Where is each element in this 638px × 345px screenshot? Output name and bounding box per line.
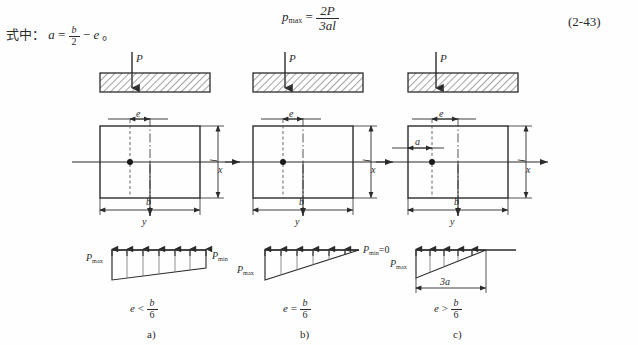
- width-label-a: b: [146, 196, 151, 207]
- load-point-c: [429, 159, 435, 165]
- condition-a: e < b 6: [130, 298, 158, 320]
- load-point-b: [280, 159, 286, 165]
- condition-den-c: 6: [451, 310, 462, 321]
- formula-note-equals: =: [58, 27, 65, 42]
- y-axis-label-a: y: [142, 216, 146, 227]
- y-axis-label-b: y: [295, 216, 299, 227]
- condition-den-a: 6: [147, 310, 158, 321]
- caption-c: c): [453, 328, 462, 340]
- base-dim-label-c: 3a: [440, 276, 450, 287]
- caption-b: b): [300, 328, 309, 340]
- pressure-left-label-a: Pmax: [86, 252, 103, 264]
- formula-note-numerator: b: [69, 25, 80, 37]
- pressure-triangle-c: [416, 250, 486, 278]
- condition-lhs-a: e: [130, 302, 135, 314]
- inner-dim-label-c: a: [415, 136, 420, 147]
- width-label-b: b: [299, 196, 304, 207]
- load-point-a: [127, 159, 133, 165]
- condition-c: e > b 6: [434, 298, 462, 320]
- figure-column-c: P e a l b x: [398, 0, 598, 345]
- width-label-c: b: [454, 196, 459, 207]
- condition-fraction-b: b 6: [300, 298, 311, 320]
- ecc-label-c: e: [439, 108, 443, 119]
- height-label-a: l: [208, 159, 219, 162]
- pressure-right-label-b: Pmin=0: [363, 244, 389, 256]
- footing-block-c: [408, 73, 518, 92]
- elevation-view-c: [398, 48, 578, 104]
- condition-b: e = b 6: [283, 298, 311, 320]
- condition-lhs-c: e: [434, 302, 439, 314]
- condition-num-a: b: [147, 298, 158, 310]
- load-label-a: P: [136, 52, 143, 64]
- x-axis-label-a: x: [218, 164, 222, 175]
- plan-view-c: [398, 112, 583, 222]
- caption-a: a): [147, 328, 156, 340]
- height-label-b: l: [361, 159, 372, 162]
- pressure-right-label-a: Pmin: [212, 250, 228, 262]
- condition-op-b: =: [291, 302, 297, 314]
- condition-num-c: b: [451, 298, 462, 310]
- condition-fraction-c: b 6: [451, 298, 462, 320]
- formula-note-lhs: a: [48, 27, 55, 42]
- x-axis-label-b: x: [371, 164, 375, 175]
- condition-op-c: >: [442, 302, 448, 314]
- condition-fraction-a: b 6: [147, 298, 158, 320]
- pressure-left-label-b: Pmax: [237, 264, 254, 276]
- ecc-label-b: e: [289, 108, 293, 119]
- load-label-b: P: [289, 52, 296, 64]
- footing-block-a: [100, 73, 210, 92]
- formula-note-prefix: 式中：: [6, 27, 45, 42]
- formula-note-fraction: b 2: [69, 25, 80, 47]
- pressure-left-label-c: Pmax: [390, 258, 407, 270]
- formula-note-denominator: 2: [69, 37, 80, 48]
- condition-den-b: 6: [300, 310, 311, 321]
- condition-num-b: b: [300, 298, 311, 310]
- pressure-diagram-c: [398, 244, 583, 304]
- condition-op-a: <: [138, 302, 144, 314]
- x-axis-label-c: x: [526, 164, 530, 175]
- elevation-view-b: [243, 48, 423, 104]
- condition-lhs-b: e: [283, 302, 288, 314]
- y-axis-label-c: y: [450, 216, 454, 227]
- footing-block-b: [253, 73, 363, 92]
- load-label-c: P: [440, 52, 447, 64]
- height-label-c: l: [516, 159, 527, 162]
- ecc-label-a: e: [136, 108, 140, 119]
